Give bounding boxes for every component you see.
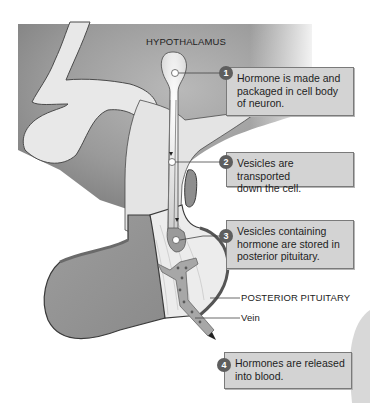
step-4-text: Hormones are released into blood.: [235, 357, 345, 382]
step-3-text: Vesicles containing hormone are stored i…: [237, 225, 347, 263]
step-4-badge: 4: [217, 358, 231, 372]
page-edge-shape: [350, 310, 370, 403]
step-1-badge: 1: [219, 66, 233, 80]
step-3-callout: Vesicles containing hormone are stored i…: [226, 220, 354, 269]
hypothalamus-pituitary-illustration: [0, 0, 370, 403]
step-4-callout: Hormones are released into blood.: [224, 352, 352, 389]
step-2-badge: 2: [219, 155, 233, 169]
posterior-pituitary-label: POSTERIOR PITUITARY: [241, 292, 350, 303]
hypothalamus-label: HYPOTHALAMUS: [146, 36, 226, 47]
step-2-text: Vesicles are transported down the cell.: [237, 157, 347, 195]
anterior-pituitary: [44, 215, 165, 339]
vein-label: Vein: [241, 312, 260, 323]
step-1-callout: Hormone is made and packaged in cell bod…: [226, 67, 354, 116]
step-1-text: Hormone is made and packaged in cell bod…: [237, 72, 347, 110]
step-3-badge: 3: [219, 229, 233, 243]
step-2-callout: Vesicles are transported down the cell.: [226, 152, 354, 187]
